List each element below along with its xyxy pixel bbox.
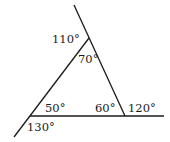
angle-label-left-interior: 50° bbox=[45, 101, 65, 115]
angle-label-top-exterior: 110° bbox=[52, 32, 80, 46]
angle-label-top-interior: 70° bbox=[78, 52, 98, 66]
triangle-diagram: 110° 70° 50° 60° 120° 130° bbox=[0, 0, 170, 142]
angle-label-right-exterior: 120° bbox=[128, 101, 156, 115]
angle-label-right-interior: 60° bbox=[95, 101, 115, 115]
angle-label-left-exterior: 130° bbox=[27, 120, 55, 134]
